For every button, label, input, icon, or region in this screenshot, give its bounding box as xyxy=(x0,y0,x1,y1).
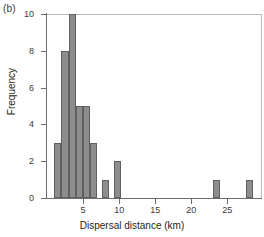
bar xyxy=(102,180,109,198)
x-axis-tick xyxy=(155,199,156,204)
x-axis-line xyxy=(46,198,262,199)
bar xyxy=(54,143,61,198)
x-axis-tick-label: 5 xyxy=(71,205,95,215)
x-axis-tick-label: 15 xyxy=(143,205,167,215)
x-axis-tick-label: 10 xyxy=(107,205,131,215)
y-axis-tick xyxy=(41,88,46,89)
x-axis-tick xyxy=(119,199,120,204)
plot-area xyxy=(47,14,262,198)
y-axis-tick xyxy=(41,198,46,199)
y-axis-tick xyxy=(41,124,46,125)
x-axis-tick xyxy=(227,199,228,204)
x-axis-tick-label: 20 xyxy=(179,205,203,215)
y-axis-tick-label: 10 xyxy=(8,10,34,19)
bar xyxy=(90,143,97,198)
plot-top-frame xyxy=(47,14,262,15)
y-axis-tick xyxy=(41,51,46,52)
y-axis-tick-label: 0 xyxy=(8,194,34,203)
x-axis-tick xyxy=(83,199,84,204)
x-axis-title: Dispersal distance (km) xyxy=(0,220,264,231)
plot-right-frame xyxy=(261,14,262,198)
y-axis-title: Frequency xyxy=(6,44,17,140)
bar xyxy=(213,180,220,198)
bar xyxy=(114,161,121,198)
bar xyxy=(76,106,83,198)
x-axis-tick xyxy=(191,199,192,204)
y-axis-tick-label: 2 xyxy=(8,157,34,166)
y-axis-tick xyxy=(41,14,46,15)
x-axis-tick-label: 25 xyxy=(215,205,239,215)
y-axis-tick xyxy=(41,161,46,162)
bar xyxy=(246,180,253,198)
bar xyxy=(61,51,68,198)
bar xyxy=(69,14,76,198)
bar xyxy=(83,106,90,198)
histogram-figure: (b) 0246810 510152025 Frequency Dispersa… xyxy=(0,0,264,237)
